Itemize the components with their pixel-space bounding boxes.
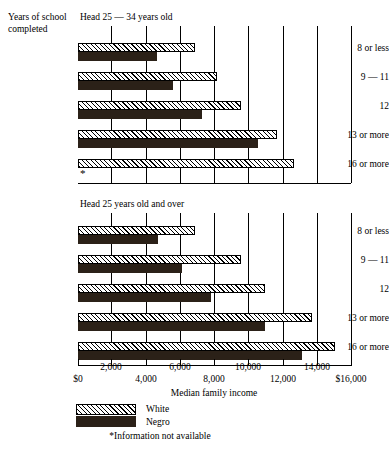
legend-swatch-white — [76, 404, 136, 415]
plot-area-upper: * — [78, 26, 351, 183]
tick-4000 — [146, 359, 147, 366]
cat-label-lower-12: 12 — [317, 284, 389, 294]
cat-label-upper-12: 12 — [317, 101, 389, 111]
tick-8000 — [214, 359, 215, 366]
plot-area-lower — [78, 213, 351, 365]
bar-white-lower-16-or-more — [78, 342, 335, 351]
bar-negro-lower-8-or-less — [78, 235, 158, 244]
tick-label-2000: 2,000 — [100, 362, 121, 372]
bar-white-lower-12 — [78, 284, 265, 293]
bar-negro-upper-13-or-more — [78, 139, 258, 148]
cat-label-lower-16-or-more: 16 or more — [317, 342, 389, 352]
tick-label-8000: 8,000 — [203, 374, 224, 384]
bar-white-lower-8-or-less — [78, 226, 195, 235]
bar-white-upper-9-11 — [78, 72, 217, 81]
bar-white-upper-13-or-more — [78, 130, 277, 139]
footnote: *Information not available — [109, 431, 210, 441]
bar-white-upper-12 — [78, 101, 241, 110]
tick-16000 — [351, 359, 352, 366]
chart-container: Years of school completed Head 25 — 34 y… — [0, 0, 389, 455]
y-axis-title-line1: Years of school — [8, 12, 88, 24]
bar-negro-lower-9-11 — [78, 264, 182, 273]
tick-label-0: $0 — [73, 374, 83, 384]
cat-label-lower-8-or-less: 8 or less — [317, 226, 389, 236]
bar-negro-lower-13-or-more — [78, 322, 265, 331]
tick-0 — [78, 359, 79, 366]
cat-label-lower-9-11: 9 — 11 — [317, 255, 389, 265]
y-axis-title-line2: completed — [8, 24, 88, 36]
bar-negro-upper-9-11 — [78, 81, 173, 90]
not-available-marker: * — [80, 169, 86, 178]
tick-12000 — [283, 359, 284, 366]
panel-title-lower: Head 25 years old and over — [80, 199, 184, 209]
tick-label-10000: 10,000 — [235, 362, 261, 372]
y-axis-title: Years of school completed — [8, 12, 88, 35]
bar-white-lower-9-11 — [78, 255, 241, 264]
tick-label-14000: 14,000 — [304, 362, 330, 372]
bar-negro-upper-12 — [78, 110, 202, 119]
legend-swatch-negro — [76, 416, 136, 427]
legend-label-white: White — [146, 404, 169, 414]
cat-label-upper-9-11: 9 — 11 — [317, 72, 389, 82]
x-axis-title: Median family income — [171, 388, 258, 398]
legend-label-negro: Negro — [146, 417, 170, 427]
cat-label-upper-8-or-less: 8 or less — [317, 43, 389, 53]
bar-white-upper-8-or-less — [78, 43, 195, 52]
bar-negro-lower-12 — [78, 293, 211, 302]
panel-title-upper: Head 25 — 34 years old — [80, 12, 173, 22]
bar-negro-upper-8-or-less — [78, 52, 157, 61]
tick-label-12000: 12,000 — [270, 374, 296, 384]
bar-white-lower-13-or-more — [78, 313, 312, 322]
axis-line-upper — [78, 183, 351, 184]
cat-label-lower-13-or-more: 13 or more — [317, 313, 389, 323]
tick-label-16000: $16,000 — [336, 374, 367, 384]
tick-label-6000: 6,000 — [169, 362, 190, 372]
cat-label-upper-16-or-more: 16 or more — [317, 159, 389, 169]
cat-label-upper-13-or-more: 13 or more — [317, 130, 389, 140]
tick-label-4000: 4,000 — [135, 374, 156, 384]
bar-white-upper-16-or-more — [78, 159, 294, 168]
